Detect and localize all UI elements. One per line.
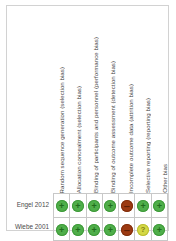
judgement-glyph: + <box>153 200 165 212</box>
low-risk-icon: + <box>104 200 116 212</box>
low-risk-icon: + <box>137 200 149 212</box>
judgement-cell: + <box>135 194 151 218</box>
study-label: Engel 2012 <box>7 193 53 216</box>
low-risk-icon: + <box>72 200 84 212</box>
judgement-cell: – <box>119 194 135 218</box>
judgement-glyph: + <box>137 200 149 212</box>
table-row: ++++–++ <box>54 194 168 218</box>
row-label-band: Engel 2012Wiebe 2001 <box>7 193 53 238</box>
column-header-label: Random sequence generation (selection bi… <box>53 65 70 193</box>
judgement-glyph: – <box>121 224 133 236</box>
judgement-cell: + <box>86 217 102 241</box>
judgement-cell: – <box>119 217 135 241</box>
table-row: ++++–?+ <box>54 217 168 241</box>
judgement-cell: + <box>54 194 70 218</box>
judgement-cell: + <box>54 217 70 241</box>
judgement-cell: + <box>102 217 118 241</box>
column-header-6: Other bias <box>156 6 173 193</box>
column-header-label: Allocation concealment (selection bias) <box>70 84 87 193</box>
study-label: Wiebe 2001 <box>7 216 53 239</box>
high-risk-icon: – <box>121 224 133 236</box>
column-header-5: Selective reporting (reporting bias) <box>139 6 156 193</box>
judgement-cell: + <box>86 194 102 218</box>
risk-of-bias-grid-body: ++++–++++++–?+ <box>54 194 168 241</box>
column-header-label: Binding of participants and personnel (p… <box>87 35 104 193</box>
judgement-cell: + <box>151 194 167 218</box>
judgement-glyph: ? <box>137 224 149 236</box>
judgement-glyph: + <box>56 200 68 212</box>
judgement-cell: + <box>151 217 167 241</box>
risk-of-bias-grid: ++++–++++++–?+ <box>53 193 168 241</box>
judgement-glyph: + <box>88 224 100 236</box>
judgement-cell: + <box>102 194 118 218</box>
high-risk-icon: – <box>121 200 133 212</box>
judgement-glyph: + <box>104 224 116 236</box>
judgement-glyph: + <box>153 224 165 236</box>
column-header-0: Random sequence generation (selection bi… <box>53 6 70 193</box>
judgement-glyph: + <box>72 200 84 212</box>
judgement-glyph: + <box>104 200 116 212</box>
column-header-1: Allocation concealment (selection bias) <box>70 6 87 193</box>
low-risk-icon: + <box>153 224 165 236</box>
risk-of-bias-figure: Random sequence generation (selection bi… <box>6 5 169 231</box>
column-header-3: Binding of outcome assessment (detection… <box>104 6 121 193</box>
judgement-glyph: + <box>72 224 84 236</box>
low-risk-icon: + <box>56 224 68 236</box>
low-risk-icon: + <box>104 224 116 236</box>
low-risk-icon: + <box>56 200 68 212</box>
column-header-band: Random sequence generation (selection bi… <box>53 6 173 193</box>
low-risk-icon: + <box>88 224 100 236</box>
column-header-2: Binding of participants and personnel (p… <box>87 6 104 193</box>
column-header-label: Selective reporting (reporting bias) <box>139 96 156 193</box>
low-risk-icon: + <box>72 224 84 236</box>
unclear-risk-icon: ? <box>137 224 149 236</box>
column-header-label: Incomplete outcome data (attrition bias) <box>122 82 139 193</box>
judgement-glyph: – <box>121 200 133 212</box>
column-header-4: Incomplete outcome data (attrition bias) <box>122 6 139 193</box>
column-header-label: Other bias <box>156 162 173 193</box>
judgement-cell: ? <box>135 217 151 241</box>
judgement-glyph: + <box>88 200 100 212</box>
low-risk-icon: + <box>153 200 165 212</box>
judgement-cell: + <box>70 194 86 218</box>
judgement-cell: + <box>70 217 86 241</box>
column-header-label: Binding of outcome assessment (detection… <box>104 59 121 193</box>
low-risk-icon: + <box>88 200 100 212</box>
judgement-glyph: + <box>56 224 68 236</box>
